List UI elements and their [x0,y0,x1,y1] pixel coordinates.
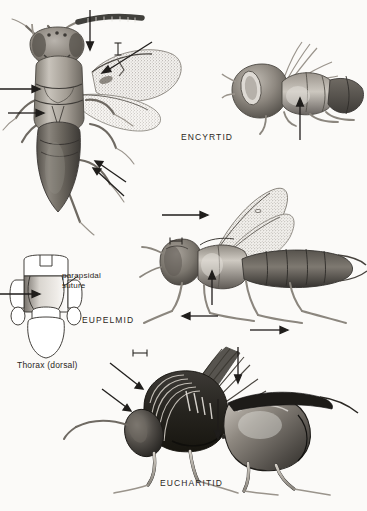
antennae [140,247,162,277]
arrow-to-mesoscutum [297,98,304,140]
scale-bar-icon [133,350,147,357]
figure-eucharitid-lateral [62,345,367,495]
legs [144,281,346,323]
mesosoma [282,72,335,115]
figure-eupelmid-lateral [140,185,367,325]
arrow-to-mesoscutum [0,86,40,93]
illustration-plate: ENCYRTID [0,0,367,511]
label-encyrtid: ENCYRTID [181,132,233,142]
head [232,64,288,118]
label-eucharitid: EUCHARITID [160,478,223,488]
arrow-to-hindleg-b [93,168,124,196]
label-parapsidal-suture: parapsidal suture [62,271,110,290]
scale-bar-icon [115,43,122,55]
head [160,239,202,285]
arrow-to-scutellum [8,110,44,117]
gaster [328,76,364,114]
label-eupelmid: EUPELMID [82,315,134,325]
gaster [37,122,81,212]
antennae [64,421,128,439]
arrow-to-forewing [162,212,208,219]
arrow-to-mesosoma-lower [102,389,131,411]
arrow-to-hindleg [250,327,288,334]
figure-encyrtid-lateral [222,42,367,142]
gaster [242,249,367,288]
forewing [92,50,181,102]
arrow-to-mesosoma-upper [110,363,143,389]
